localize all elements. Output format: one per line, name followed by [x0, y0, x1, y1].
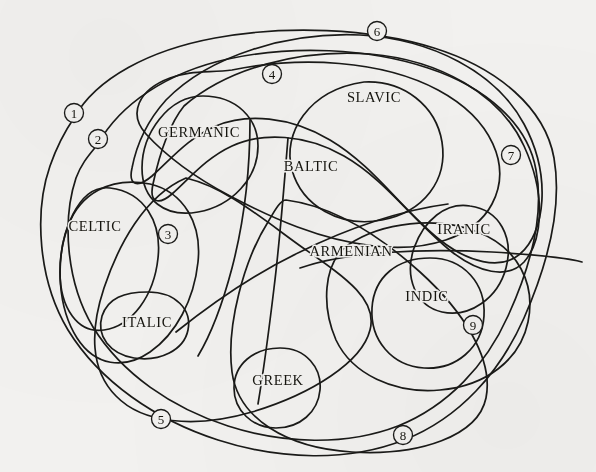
branch-label-iranic: IRANIC — [437, 221, 491, 237]
branch-label-celtic: CELTIC — [68, 218, 121, 234]
isogloss-marker-7: 7 — [502, 146, 521, 165]
branch-label-baltic: BALTIC — [284, 158, 339, 174]
isogloss-marker-9: 9 — [464, 316, 483, 335]
isogloss-marker-7-label: 7 — [508, 148, 515, 163]
crossing-stroke-center-diagonal — [176, 204, 448, 332]
branch-label-armenian: ARMENIAN — [310, 243, 393, 259]
euler-diagram-canvas: GERMANIC SLAVIC BALTIC CELTIC IRANIC ARM… — [0, 0, 596, 472]
isogloss-marker-6: 6 — [368, 22, 387, 41]
isogloss-marker-5-label: 5 — [158, 412, 165, 427]
isogloss-marker-3: 3 — [159, 225, 178, 244]
isogloss-marker-4: 4 — [263, 65, 282, 84]
euler-diagram: GERMANIC SLAVIC BALTIC CELTIC IRANIC ARM… — [0, 0, 596, 472]
isogloss-marker-1-label: 1 — [71, 106, 78, 121]
isogloss-marker-3-label: 3 — [165, 227, 172, 242]
isogloss-marker-2: 2 — [89, 130, 108, 149]
isogloss-marker-1: 1 — [65, 104, 84, 123]
branch-label-indic: INDIC — [405, 288, 448, 304]
isogloss-curve-3 — [60, 182, 198, 363]
isogloss-marker-8-label: 8 — [400, 428, 407, 443]
branch-label-slavic: SLAVIC — [347, 89, 401, 105]
branch-oval-indic — [372, 258, 484, 368]
isogloss-marker-8: 8 — [394, 426, 413, 445]
isogloss-marker-2-label: 2 — [95, 132, 102, 147]
isogloss-marker-5: 5 — [152, 410, 171, 429]
crossing-stroke-germanic-down — [198, 120, 250, 356]
isogloss-marker-6-label: 6 — [374, 24, 381, 39]
branch-label-greek: GREEK — [252, 372, 303, 388]
isogloss-curve-1 — [41, 30, 557, 456]
branch-label-italic: ITALIC — [122, 314, 172, 330]
branch-oval-celtic — [60, 188, 159, 331]
isogloss-marker-4-label: 4 — [269, 67, 276, 82]
isogloss-marker-9-label: 9 — [470, 318, 477, 333]
branch-label-germanic: GERMANIC — [158, 124, 240, 140]
